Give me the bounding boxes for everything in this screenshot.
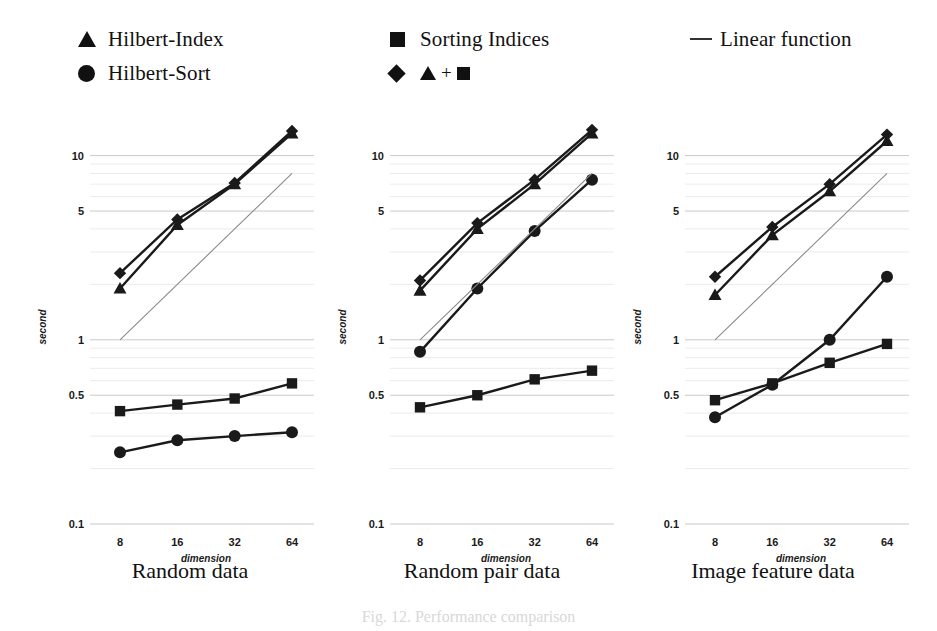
x-tick-label: 32 [824, 536, 836, 548]
square-data-point [172, 399, 182, 409]
x-tick-label: 32 [529, 536, 541, 548]
square-data-point [472, 390, 482, 400]
series- [709, 128, 893, 283]
plot-area: 10510.50.1second8163264dimension [617, 96, 917, 566]
circle-data-point [171, 434, 183, 446]
y-tick-label: 10 [72, 150, 84, 162]
series-hilbert-sort [114, 426, 298, 458]
y-tick-label: 0.5 [369, 389, 384, 401]
square-data-point [767, 378, 777, 388]
legend-column-2: Sorting Indices + [390, 22, 549, 90]
legend-item-linear-function: Linear function [690, 22, 852, 56]
y-axis-label: second [632, 309, 643, 345]
x-tick-label: 32 [229, 536, 241, 548]
chart-panel-random-data: 10510.50.1second8163264dimension Random … [22, 96, 322, 596]
circle-data-point [529, 225, 541, 237]
x-tick-label: 64 [286, 536, 299, 548]
plus-sign: + [441, 62, 452, 84]
square-data-point [710, 395, 720, 405]
legend-column-1: Hilbert-Index Hilbert-Sort [78, 22, 224, 90]
y-tick-label: 0.1 [664, 518, 679, 530]
legend-label-combined: + [420, 62, 470, 84]
square-data-point [824, 358, 834, 368]
panel-title: Random pair data [322, 558, 632, 584]
y-tick-label: 1 [673, 334, 679, 346]
series-sorting-indices [415, 365, 597, 412]
circle-data-point [709, 411, 721, 423]
square-glyph-icon [457, 67, 470, 80]
y-tick-label: 5 [673, 205, 679, 217]
series-sorting-indices [115, 378, 297, 416]
panel-title: Image feature data [617, 558, 923, 584]
circle-marker-icon [78, 65, 108, 82]
y-tick-label: 0.1 [369, 518, 384, 530]
circle-data-point [824, 334, 836, 346]
legend-item-hilbert-index: Hilbert-Index [78, 22, 224, 56]
y-tick-label: 5 [78, 205, 84, 217]
circle-data-point [586, 174, 598, 186]
y-axis-label: second [337, 309, 348, 345]
panel-title: Random data [22, 558, 340, 584]
square-marker-icon [390, 32, 420, 47]
line-marker-icon [690, 38, 720, 40]
legend-column-3: Linear function [690, 22, 852, 56]
x-tick-label: 64 [586, 536, 599, 548]
y-tick-label: 0.5 [69, 389, 84, 401]
y-tick-label: 0.5 [664, 389, 679, 401]
circle-data-point [881, 271, 893, 283]
square-data-point [287, 378, 297, 388]
circle-data-point [229, 430, 241, 442]
triangle-glyph-icon [420, 66, 436, 80]
circle-data-point [414, 346, 426, 358]
y-tick-label: 1 [378, 334, 384, 346]
y-tick-label: 5 [378, 205, 384, 217]
circle-data-point [286, 426, 298, 438]
legend-item-hilbert-sort: Hilbert-Sort [78, 56, 224, 90]
series-hilbert-index [709, 135, 894, 301]
square-data-point [587, 365, 597, 375]
square-data-point [415, 402, 425, 412]
series-linear-function [120, 173, 292, 339]
diamond-marker-icon [390, 67, 420, 80]
legend-label: Hilbert-Index [108, 27, 224, 52]
circle-data-point [114, 446, 126, 458]
series-linear-function [715, 173, 887, 339]
plot-area: 10510.50.1second8163264dimension [322, 96, 622, 566]
x-tick-label: 64 [881, 536, 894, 548]
x-tick-label: 8 [117, 536, 123, 548]
y-tick-label: 0.1 [69, 518, 84, 530]
series-linear-function [420, 173, 592, 339]
plot-area: 10510.50.1second8163264dimension [22, 96, 322, 566]
y-tick-label: 1 [78, 334, 84, 346]
square-data-point [882, 339, 892, 349]
legend-item-sorting-indices: Sorting Indices [390, 22, 549, 56]
legend-label: Sorting Indices [420, 27, 549, 52]
y-tick-label: 10 [667, 150, 679, 162]
legend-item-combined: + [390, 56, 549, 90]
figure-caption: Fig. 12. Performance comparison [0, 608, 937, 626]
x-tick-label: 16 [766, 536, 778, 548]
x-tick-label: 16 [471, 536, 483, 548]
y-axis-label: second [37, 309, 48, 345]
triangle-marker-icon [78, 31, 108, 47]
x-tick-label: 8 [417, 536, 423, 548]
square-data-point [229, 393, 239, 403]
chart-panel-random-pair-data: 10510.50.1second8163264dimension Random … [322, 96, 622, 596]
y-tick-label: 10 [372, 150, 384, 162]
x-tick-label: 8 [712, 536, 718, 548]
legend-label: Hilbert-Sort [108, 61, 211, 86]
x-tick-label: 16 [171, 536, 183, 548]
series-hilbert-sort [709, 271, 893, 423]
square-data-point [115, 406, 125, 416]
square-data-point [529, 374, 539, 384]
legend: Hilbert-Index Hilbert-Sort Sorting Indic… [0, 22, 937, 92]
chart-panel-image-feature-data: 10510.50.1second8163264dimension Image f… [617, 96, 917, 596]
legend-label: Linear function [720, 27, 852, 52]
